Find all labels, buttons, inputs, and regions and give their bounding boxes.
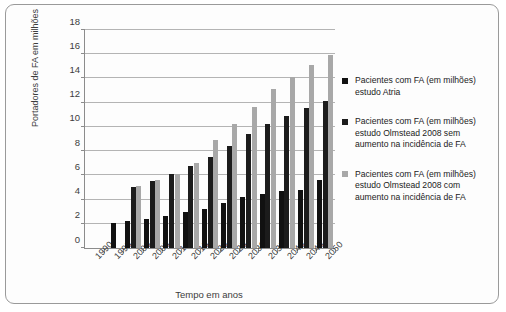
y-axis-tick-labels: 024681012141618 [50, 30, 80, 248]
y-tick-mark [81, 223, 85, 224]
bar [279, 191, 284, 248]
bar [125, 221, 130, 248]
y-tick-mark [81, 77, 85, 78]
gridline [85, 29, 335, 30]
bar [298, 190, 303, 248]
bar [323, 101, 328, 248]
y-tick-label: 12 [50, 89, 80, 99]
legend-swatch [342, 78, 348, 84]
bar [232, 124, 237, 248]
legend-swatch [342, 119, 348, 125]
bar [183, 212, 188, 248]
y-tick-label: 18 [50, 16, 80, 26]
x-axis-title: Tempo em anos [84, 289, 334, 300]
bar [155, 180, 160, 248]
bar [284, 116, 289, 248]
y-tick-mark [81, 199, 85, 200]
bar [194, 163, 199, 248]
y-tick-label: 6 [50, 161, 80, 171]
plot-area: 1990199520002005201020152020202520302035… [84, 30, 335, 249]
gridline [85, 102, 335, 103]
gridline [85, 53, 335, 54]
y-tick-label: 10 [50, 113, 80, 123]
bar [328, 55, 333, 248]
bar [309, 65, 314, 248]
bar [240, 197, 245, 248]
bar [150, 181, 155, 248]
legend-entry: Pacientes com FA (em milhões) estudo Olm… [342, 169, 492, 204]
y-tick-label: 2 [50, 210, 80, 220]
bar [136, 186, 141, 248]
y-tick-mark [81, 247, 85, 248]
legend-entry: Pacientes com FA (em milhões) estudo Atr… [342, 75, 492, 98]
bar [227, 146, 232, 248]
y-tick-label: 0 [50, 234, 80, 244]
bar [202, 209, 207, 248]
bar [213, 140, 218, 248]
legend-label: Pacientes com FA (em milhões) estudo Olm… [355, 116, 476, 149]
bar [163, 216, 168, 248]
legend-label: Pacientes com FA (em milhões) estudo Atr… [355, 75, 476, 97]
chart-legend: Pacientes com FA (em milhões) estudo Atr… [342, 75, 492, 221]
y-tick-mark [81, 174, 85, 175]
bar [252, 107, 257, 248]
gridline [85, 77, 335, 78]
legend-label: Pacientes com FA (em milhões) estudo Olm… [355, 169, 476, 202]
bar [271, 89, 276, 248]
bar [144, 219, 149, 248]
bar [175, 174, 180, 248]
chart-figure: Portadores de FA em milhões 024681012141… [5, 4, 499, 304]
y-tick-label: 8 [50, 137, 80, 147]
y-tick-mark [81, 53, 85, 54]
bar [169, 174, 174, 248]
gridline [85, 126, 335, 127]
legend-swatch [342, 171, 348, 177]
bar [208, 157, 213, 248]
y-tick-mark [81, 102, 85, 103]
y-tick-label: 14 [50, 64, 80, 74]
bar [290, 77, 295, 248]
bar [221, 203, 226, 248]
bar [317, 180, 322, 248]
y-tick-mark [81, 126, 85, 127]
y-tick-mark [81, 150, 85, 151]
gridline [85, 150, 335, 151]
bar [188, 166, 193, 248]
bar [131, 187, 136, 248]
bar [111, 223, 116, 248]
bar [246, 134, 251, 248]
bar [260, 194, 265, 249]
y-tick-mark [81, 29, 85, 30]
y-axis-title: Portadores de FA em milhões [30, 0, 40, 143]
bar [265, 124, 270, 248]
y-tick-label: 16 [50, 40, 80, 50]
bar [304, 108, 309, 248]
y-tick-label: 4 [50, 186, 80, 196]
legend-entry: Pacientes com FA (em milhões) estudo Olm… [342, 116, 492, 151]
